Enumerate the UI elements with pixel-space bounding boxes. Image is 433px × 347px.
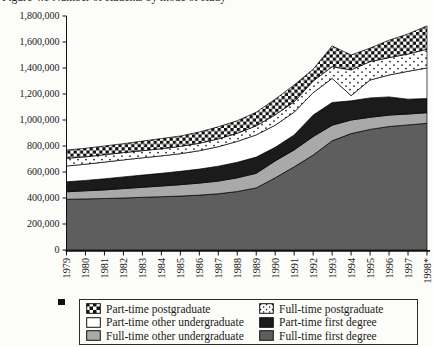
legend-item-part-time-postgraduate: Part-time postgraduate — [86, 303, 259, 315]
legend-label: Part-time other undergraduate — [106, 316, 244, 328]
x-axis-label: 1987 — [213, 258, 224, 278]
x-axis-label: 1981 — [99, 258, 110, 278]
x-axis-label: 1991 — [289, 258, 300, 278]
y-axis-label: 0 — [55, 244, 60, 255]
y-axis-label: 1,600,000 — [20, 36, 60, 47]
x-axis-label: 1994 — [346, 258, 357, 278]
legend-swatch-darkgray-icon — [259, 330, 274, 341]
legend-item-part-time-other-undergraduate: Part-time other undergraduate — [86, 316, 259, 328]
y-axis-label: 600,000 — [27, 166, 60, 177]
legend-label: Part-time first degree — [279, 316, 377, 328]
x-axis-label: 1996 — [384, 258, 395, 278]
x-axis-label: 1982 — [118, 258, 129, 278]
legend-swatch-checker-icon — [86, 303, 101, 314]
y-axis-label: 1,000,000 — [20, 114, 60, 125]
x-axis-label: 1980 — [80, 258, 91, 278]
scan-artifact-mark — [58, 299, 65, 305]
x-axis-label: 1990 — [270, 258, 281, 278]
legend-swatch-lightgray-icon — [86, 330, 101, 341]
y-axis-label: 1,400,000 — [20, 62, 60, 73]
x-axis-label: 1989 — [251, 258, 262, 278]
legend-label: Full-time other undergraduate — [106, 330, 244, 342]
legend-label: Full-time postgraduate — [279, 303, 383, 315]
x-axis-label: 1998* — [422, 258, 433, 283]
chart-legend: Part-time postgraduateFull-time postgrad… — [79, 299, 418, 345]
x-axis-label: 1995 — [365, 258, 376, 278]
legend-item-part-time-first-degree: Part-time first degree — [259, 316, 413, 328]
legend-item-full-time-first-degree: Full-time first degree — [259, 330, 413, 342]
legend-label: Part-time postgraduate — [106, 303, 210, 315]
x-axis-label: 1997 — [403, 258, 414, 278]
legend-swatch-black-icon — [259, 317, 274, 328]
y-axis-label: 1,800,000 — [20, 10, 60, 21]
x-axis-label: 1979 — [61, 258, 72, 278]
x-axis-label: 1983 — [137, 258, 148, 278]
y-axis-label: 400,000 — [27, 192, 60, 203]
chart-canvas: 0200,000400,000600,000800,0001,000,0001,… — [0, 0, 433, 300]
y-axis-label: 200,000 — [27, 218, 60, 229]
y-axis-label: 800,000 — [27, 140, 60, 151]
legend-label: Full-time first degree — [279, 330, 377, 342]
x-axis-label: 1986 — [194, 258, 205, 278]
legend-item-full-time-other-undergraduate: Full-time other undergraduate — [86, 330, 259, 342]
x-axis-label: 1992 — [308, 258, 319, 278]
legend-swatch-white-icon — [86, 317, 101, 328]
legend-swatch-dots-icon — [259, 303, 274, 314]
x-axis-label: 1988 — [232, 258, 243, 278]
y-axis-label: 1,200,000 — [20, 88, 60, 99]
x-axis-label: 1984 — [156, 258, 167, 278]
x-axis-label: 1985 — [175, 258, 186, 278]
legend-item-full-time-postgraduate: Full-time postgraduate — [259, 303, 413, 315]
stacked-area-chart: 0200,000400,000600,000800,0001,000,0001,… — [0, 0, 433, 300]
x-axis-label: 1993 — [327, 258, 338, 278]
